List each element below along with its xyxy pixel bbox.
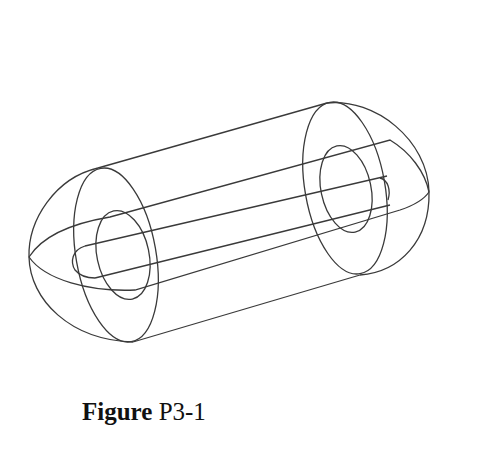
outer-left-ring	[61, 161, 170, 348]
outer-right-ring	[291, 95, 400, 280]
caption-number: P3-1	[152, 398, 205, 425]
inner-bottom-edge	[95, 205, 390, 278]
caption-label: Figure	[82, 398, 152, 425]
outer-bottom-edge	[133, 275, 360, 342]
outer-equator-bottom	[29, 192, 429, 290]
outer-top-edge	[98, 103, 327, 168]
outer-right-cap	[327, 103, 429, 275]
inner-left-end	[72, 246, 95, 278]
capsule-wireframe-drawing	[0, 0, 477, 460]
figure-caption: Figure P3-1	[82, 398, 206, 426]
outer-left-cap	[29, 168, 133, 342]
inner-right-ring	[312, 141, 379, 237]
outer-equator-top	[29, 140, 429, 257]
